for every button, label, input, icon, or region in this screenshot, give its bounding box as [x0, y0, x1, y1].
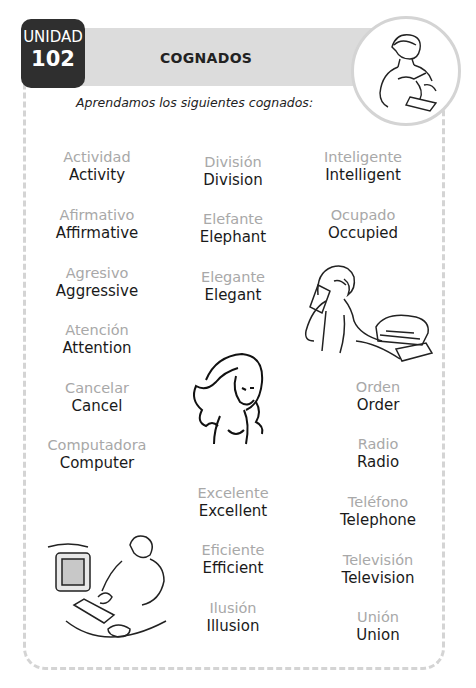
- english-word: Excellent: [168, 502, 298, 521]
- english-word: Division: [168, 171, 298, 190]
- word-pair: Actividad Activity: [32, 148, 162, 185]
- spanish-word: Elegante: [168, 268, 298, 286]
- spanish-word: Ilusión: [168, 599, 298, 617]
- spanish-word: Televisión: [313, 551, 443, 569]
- word-pair: Televisión Television: [313, 551, 443, 588]
- woman-printer-icon: [296, 245, 436, 365]
- man-writing-icon: [354, 19, 458, 123]
- english-word: Elegant: [168, 286, 298, 305]
- page-subtitle: Aprendamos los siguientes cognados:: [76, 95, 313, 110]
- english-word: Elephant: [168, 228, 298, 247]
- spanish-word: Ocupado: [298, 206, 428, 224]
- english-word: Cancel: [32, 397, 162, 416]
- man-computer-icon: [38, 525, 178, 655]
- word-pair: Inteligente Intelligent: [298, 148, 428, 185]
- spanish-word: Afirmativo: [32, 206, 162, 224]
- english-word: Affirmative: [32, 224, 162, 243]
- spanish-word: Orden: [313, 378, 443, 396]
- word-pair: Ilusión Illusion: [168, 599, 298, 636]
- unit-badge: UNIDAD 102: [21, 19, 85, 88]
- word-pair: Ocupado Occupied: [298, 206, 428, 243]
- word-pair: Elegante Elegant: [168, 268, 298, 305]
- english-word: Aggressive: [32, 282, 162, 301]
- spanish-word: Atención: [32, 321, 162, 339]
- word-pair: Orden Order: [313, 378, 443, 415]
- unit-number: 102: [21, 47, 85, 71]
- spanish-word: Eficiente: [168, 541, 298, 559]
- english-word: Intelligent: [298, 166, 428, 185]
- english-word: Activity: [32, 166, 162, 185]
- word-pair: Unión Union: [313, 608, 443, 645]
- english-word: Attention: [32, 339, 162, 358]
- english-word: Illusion: [168, 617, 298, 636]
- spanish-word: División: [168, 153, 298, 171]
- spanish-word: Radio: [313, 435, 443, 453]
- word-pair: Cancelar Cancel: [32, 379, 162, 416]
- word-pair: Afirmativo Affirmative: [32, 206, 162, 243]
- english-word: Union: [313, 626, 443, 645]
- spanish-word: Excelente: [168, 484, 298, 502]
- word-pair: Elefante Elephant: [168, 210, 298, 247]
- word-pair: Radio Radio: [313, 435, 443, 472]
- page-title: COGNADOS: [160, 50, 252, 66]
- english-word: Computer: [32, 454, 162, 473]
- spanish-word: Computadora: [32, 436, 162, 454]
- spanish-word: Actividad: [32, 148, 162, 166]
- woman-portrait-icon: [176, 340, 286, 450]
- spanish-word: Teléfono: [313, 493, 443, 511]
- word-pair: División Division: [168, 153, 298, 190]
- english-word: Order: [313, 396, 443, 415]
- word-pair: Eficiente Efficient: [168, 541, 298, 578]
- spanish-word: Agresivo: [32, 264, 162, 282]
- english-word: Television: [313, 569, 443, 588]
- word-pair: Computadora Computer: [32, 436, 162, 473]
- english-word: Efficient: [168, 559, 298, 578]
- word-pair: Agresivo Aggressive: [32, 264, 162, 301]
- unit-label: UNIDAD: [21, 28, 85, 46]
- english-word: Occupied: [298, 224, 428, 243]
- illustration-circle: [351, 16, 461, 126]
- word-pair: Excelente Excellent: [168, 484, 298, 521]
- english-word: Radio: [313, 453, 443, 472]
- word-pair: Teléfono Telephone: [313, 493, 443, 530]
- spanish-word: Inteligente: [298, 148, 428, 166]
- word-pair: Atención Attention: [32, 321, 162, 358]
- spanish-word: Unión: [313, 608, 443, 626]
- english-word: Telephone: [313, 511, 443, 530]
- spanish-word: Elefante: [168, 210, 298, 228]
- spanish-word: Cancelar: [32, 379, 162, 397]
